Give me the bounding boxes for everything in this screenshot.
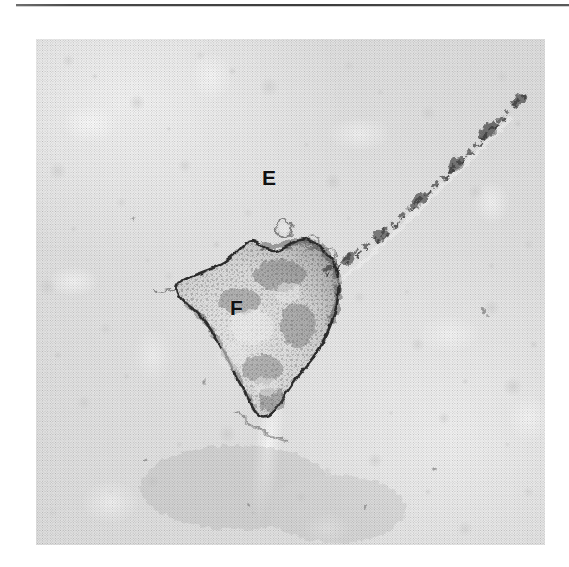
lower-tissue-band	[140, 445, 406, 543]
micrograph-structures-overlay	[36, 39, 545, 545]
left-tick-mark	[154, 289, 176, 292]
micrograph-label-e: E	[262, 167, 276, 188]
electron-micrograph-plate	[36, 39, 545, 545]
membrane-track	[324, 91, 530, 283]
micrograph-label-f: F	[230, 297, 243, 318]
top-horizontal-rule	[16, 4, 569, 6]
dark-cell-body	[176, 239, 338, 417]
figure-page: E F	[0, 0, 569, 567]
